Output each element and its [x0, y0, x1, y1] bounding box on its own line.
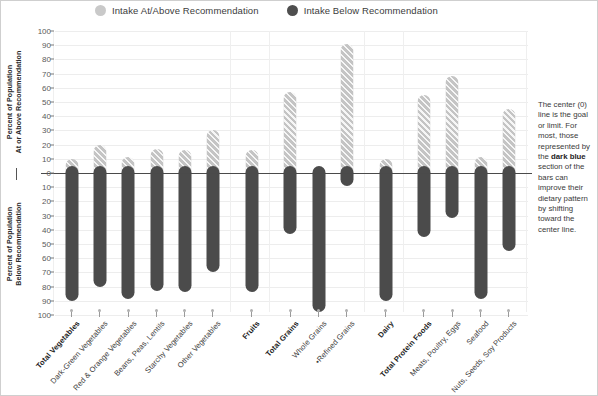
- y-axis-tick-mark: [50, 102, 54, 103]
- y-axis-tick-label: 80: [25, 55, 51, 64]
- bar-below-recommendation[interactable]: [474, 166, 487, 299]
- y-axis-tick-label: 10: [25, 154, 51, 163]
- callout-line-9: improve their: [538, 183, 583, 192]
- callout-line-8: bars can: [538, 173, 568, 182]
- y-axis-title-above-line2: At or Above Recommendation: [15, 31, 24, 173]
- y-axis-tick-mark: [50, 59, 54, 60]
- y-axis-tick-label: 60: [25, 83, 51, 92]
- y-axis-tick-mark: [50, 258, 54, 259]
- bar-below-recommendation[interactable]: [66, 166, 79, 301]
- x-axis-tick-mark: [71, 312, 72, 317]
- bar-group[interactable]: [466, 31, 496, 312]
- x-axis-tick-mark: [251, 312, 252, 317]
- y-axis-tick-label: 50: [25, 240, 51, 249]
- vertical-gridline: [230, 31, 231, 312]
- y-axis-tick-mark: [50, 31, 54, 32]
- plot-area: [55, 31, 528, 312]
- y-axis-tick-mark: [50, 73, 54, 74]
- y-axis-tick-mark: [50, 158, 54, 159]
- x-axis-tick-mark: [423, 312, 424, 317]
- bar-group[interactable]: [237, 31, 267, 312]
- vertical-gridline: [269, 31, 270, 312]
- vertical-gridline: [403, 31, 404, 312]
- y-axis-title-below: Percent of Population Below Recommendati…: [6, 173, 23, 315]
- x-axis-category-label[interactable]: Meats, Poultry, Eggs: [408, 319, 463, 378]
- y-axis-tick-mark: [50, 173, 54, 174]
- bar-below-recommendation[interactable]: [502, 166, 515, 251]
- circle-swatch-dark-icon: [287, 5, 298, 16]
- x-axis-tick-mark: [290, 312, 291, 317]
- bar-below-recommendation[interactable]: [284, 166, 297, 234]
- y-axis-tick-label: 0: [25, 169, 51, 178]
- y-axis-tick-label: 90: [25, 41, 51, 50]
- y-axis-tick-label: 100: [25, 311, 51, 320]
- x-axis-category-label[interactable]: Seafood: [464, 319, 490, 347]
- x-axis-category-label[interactable]: Beans, Peas, Lentils: [112, 319, 166, 378]
- bar-below-recommendation[interactable]: [340, 166, 353, 186]
- bar-group[interactable]: [198, 31, 228, 312]
- callout-text: The center (0) line is the goal or limit…: [538, 100, 596, 235]
- y-axis-tick-label: 80: [25, 282, 51, 291]
- bar-group[interactable]: [57, 31, 87, 312]
- y-axis-title-below-line1: Percent of Population: [5, 207, 14, 281]
- y-axis-tick-label: 60: [25, 254, 51, 263]
- y-axis-tick-mark: [50, 215, 54, 216]
- y-axis-tick-mark: [50, 116, 54, 117]
- bar-below-recommendation[interactable]: [94, 166, 107, 287]
- bar-below-recommendation[interactable]: [178, 166, 191, 292]
- bar-below-recommendation[interactable]: [312, 166, 325, 312]
- bar-group[interactable]: [275, 31, 305, 312]
- y-axis-tick-label: 20: [25, 197, 51, 206]
- y-axis-tick-label: 40: [25, 112, 51, 121]
- axis-title-divider: [16, 168, 17, 180]
- bar-group[interactable]: [85, 31, 115, 312]
- vertical-gridline: [364, 31, 365, 312]
- y-axis-tick-mark: [50, 300, 54, 301]
- x-axis-tick-mark: [212, 312, 213, 317]
- bar-above-recommendation[interactable]: [340, 44, 353, 180]
- bar-group[interactable]: [332, 31, 362, 312]
- bar-below-recommendation[interactable]: [418, 166, 431, 237]
- x-axis-category-label[interactable]: Dairy: [376, 319, 396, 340]
- callout-line-10: dietary pattern: [538, 194, 588, 203]
- bar-group[interactable]: [409, 31, 439, 312]
- bar-group[interactable]: [371, 31, 401, 312]
- y-axis-tick-label: 70: [25, 268, 51, 277]
- bar-group[interactable]: [113, 31, 143, 312]
- x-axis-tick-mark: [385, 312, 386, 317]
- x-axis-tick-mark: [508, 312, 509, 317]
- y-axis-tick-mark: [50, 87, 54, 88]
- x-axis-tick-mark: [128, 312, 129, 317]
- legend-label-above: Intake At/Above Recommendation: [112, 5, 259, 16]
- bar-below-recommendation[interactable]: [122, 166, 135, 299]
- x-axis-tick-mark: [99, 312, 100, 317]
- y-axis-tick-mark: [50, 286, 54, 287]
- circle-swatch-light-icon: [95, 5, 106, 16]
- y-axis-tick-mark: [50, 144, 54, 145]
- callout-line-13: center line.: [538, 225, 576, 234]
- x-axis-tick-mark: [480, 312, 481, 317]
- chart-legend: Intake At/Above Recommendation Intake Be…: [0, 0, 597, 20]
- y-axis-tick-label: 90: [25, 296, 51, 305]
- x-axis-tick-mark: [452, 312, 453, 317]
- y-axis-tick-mark: [50, 315, 54, 316]
- x-axis-category-label[interactable]: Fruits: [240, 319, 261, 341]
- y-axis-title-above-line1: Percent of Population: [5, 65, 14, 139]
- bar-below-recommendation[interactable]: [207, 166, 220, 272]
- bar-below-recommendation[interactable]: [379, 166, 392, 301]
- bar-group[interactable]: [170, 31, 200, 312]
- y-axis-tick-label: 100: [25, 27, 51, 36]
- bar-above-recommendation[interactable]: [446, 76, 459, 180]
- y-axis-title-below-line2: Below Recommendation: [15, 173, 24, 315]
- bar-below-recommendation[interactable]: [150, 166, 163, 291]
- bar-below-recommendation[interactable]: [245, 166, 258, 292]
- bar-group[interactable]: [304, 31, 334, 312]
- bar-group[interactable]: [437, 31, 467, 312]
- y-axis-tick-mark: [50, 187, 54, 188]
- bar-group[interactable]: [142, 31, 172, 312]
- y-axis-tick-label: 30: [25, 211, 51, 220]
- legend-item-below: Intake Below Recommendation: [287, 5, 438, 16]
- bar-group[interactable]: [494, 31, 524, 312]
- legend-label-below: Intake Below Recommendation: [304, 5, 438, 16]
- y-axis-tick-mark: [50, 45, 54, 46]
